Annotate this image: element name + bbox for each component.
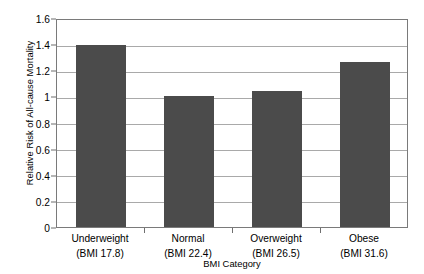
y-axis-tick-mark bbox=[51, 97, 56, 98]
category-name: Normal bbox=[144, 232, 232, 247]
category-name: Obese bbox=[320, 232, 408, 247]
y-axis-tick-mark bbox=[51, 149, 56, 150]
y-axis-tick-mark bbox=[51, 201, 56, 202]
bars-group bbox=[57, 20, 407, 227]
y-axis-tick-label: 1.4 bbox=[18, 40, 50, 51]
plot-area bbox=[56, 19, 408, 228]
x-axis-title: BMI Category bbox=[56, 258, 408, 269]
x-axis-category-label: Obese(BMI 31.6) bbox=[320, 232, 408, 261]
y-axis-tick-label: 0 bbox=[18, 223, 50, 234]
y-axis-tick-label: 1 bbox=[18, 92, 50, 103]
category-name: Underweight bbox=[56, 232, 144, 247]
y-axis-tick-label: 1.2 bbox=[18, 66, 50, 77]
bar bbox=[164, 96, 214, 227]
x-axis-category-label: Underweight(BMI 17.8) bbox=[56, 232, 144, 261]
bar bbox=[252, 91, 302, 227]
y-axis-tick-mark bbox=[51, 71, 56, 72]
y-axis-tick-mark bbox=[51, 45, 56, 46]
y-axis-tick-mark bbox=[51, 123, 56, 124]
y-axis-tick-label: 0.4 bbox=[18, 170, 50, 181]
x-axis-category-label: Normal(BMI 22.4) bbox=[144, 232, 232, 261]
y-axis-tick-label: 0.6 bbox=[18, 144, 50, 155]
x-axis-tick-mark bbox=[320, 228, 321, 233]
y-axis-tick-label: 0.2 bbox=[18, 196, 50, 207]
y-axis-tick-label: 1.6 bbox=[18, 14, 50, 25]
y-axis-tick-mark bbox=[51, 175, 56, 176]
x-axis-tick-mark bbox=[232, 228, 233, 233]
bar-chart: Relative Risk of All-cause Mortality 00.… bbox=[0, 0, 424, 274]
x-axis-category-label: Overweight(BMI 26.5) bbox=[232, 232, 320, 261]
y-axis-tick-labels: 00.20.40.60.811.21.41.6 bbox=[18, 19, 50, 228]
category-name: Overweight bbox=[232, 232, 320, 247]
bar bbox=[76, 45, 126, 227]
bar bbox=[340, 62, 390, 227]
x-axis-tick-mark bbox=[144, 228, 145, 233]
y-axis-tick-mark bbox=[51, 228, 56, 229]
y-axis-tick-mark bbox=[51, 19, 56, 20]
y-axis-tick-label: 0.8 bbox=[18, 118, 50, 129]
